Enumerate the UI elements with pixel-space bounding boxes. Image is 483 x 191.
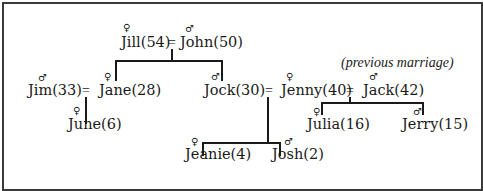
male-icon: ♂: [185, 24, 194, 34]
sibling-bar: [321, 102, 424, 104]
descent-line: [221, 60, 223, 81]
person-john: John(50): [180, 34, 243, 50]
descent-line: [267, 97, 269, 144]
person-julia: Julia(16): [307, 116, 370, 132]
person-jim: Jim(33): [28, 82, 82, 98]
person-jill: Jill(54): [121, 34, 171, 50]
person-jenny: Jenny(40): [281, 82, 352, 98]
male-icon: ♂: [211, 72, 220, 82]
male-icon: ♂: [369, 72, 378, 82]
sibling-bar: [115, 60, 223, 62]
person-jock: Jock(30): [204, 82, 265, 98]
descent-line: [422, 102, 424, 115]
female-icon: ♀: [286, 72, 293, 82]
person-jack: Jack(42): [363, 82, 424, 98]
person-jane: Jane(28): [99, 82, 161, 98]
female-icon: ♀: [123, 23, 130, 33]
descent-line: [115, 60, 117, 81]
female-icon: ♀: [73, 106, 80, 116]
female-icon: ♀: [104, 72, 111, 82]
person-june: June(6): [68, 116, 122, 132]
sibling-bar: [202, 142, 281, 144]
previous-marriage-note: (previous marriage): [341, 55, 454, 71]
person-jerry: Jerry(15): [402, 116, 468, 132]
person-jeanie: Jeanie(4): [185, 146, 251, 162]
person-josh: Josh(2): [272, 146, 324, 162]
descent-line: [321, 102, 323, 115]
